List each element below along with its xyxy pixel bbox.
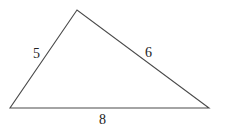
side-label-left: 5: [33, 46, 40, 61]
triangle-diagram: 5 6 8: [0, 0, 232, 127]
side-label-right: 6: [145, 45, 152, 60]
side-label-bottom: 8: [99, 112, 106, 127]
